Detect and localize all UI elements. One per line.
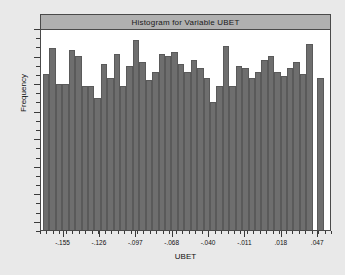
x-axis-minor-tick (247, 231, 248, 234)
x-axis-ticks (40, 231, 331, 238)
x-axis-minor-tick (131, 231, 132, 234)
x-axis-major-tick (244, 231, 245, 237)
x-axis-minor-tick (292, 231, 293, 234)
x-axis-tick-label: -.068 (164, 239, 179, 246)
x-axis-minor-tick (305, 231, 306, 234)
x-axis-minor-tick (182, 231, 183, 234)
y-axis-tick (36, 38, 40, 39)
x-axis-minor-tick (92, 231, 93, 234)
y-axis-tick (36, 66, 40, 67)
x-axis-minor-tick (312, 231, 313, 234)
plot-data-region (41, 30, 330, 230)
x-axis-minor-tick (299, 231, 300, 234)
x-axis-minor-tick (72, 231, 73, 234)
y-axis-ticks (34, 29, 40, 231)
x-axis-minor-tick (228, 231, 229, 234)
x-axis-minor-tick (176, 231, 177, 234)
y-axis-tick (34, 84, 40, 85)
y-axis-tick (36, 75, 40, 76)
y-axis-tick (36, 130, 40, 131)
x-axis-minor-tick (195, 231, 196, 234)
chart-title-banner: Histogram for Variable UBET (41, 15, 330, 30)
y-axis-tick (34, 167, 40, 168)
y-axis-label-wrap: Frequency (22, 78, 32, 168)
y-axis-tick (36, 121, 40, 122)
y-axis-tick (36, 176, 40, 177)
x-axis-minor-tick (137, 231, 138, 234)
x-axis-minor-tick (266, 231, 267, 234)
x-axis-minor-tick (253, 231, 254, 234)
x-axis-tick-label: .018 (274, 239, 287, 246)
x-axis-label: UBET (40, 252, 331, 261)
x-axis-tick-labels: -.155-.126-.097-.068-.040-.011.018.047 (40, 239, 331, 249)
screenshot-root: Histogram for Variable UBET Frequency -.… (0, 0, 345, 275)
x-axis-major-tick (135, 231, 136, 237)
x-axis-minor-tick (163, 231, 164, 234)
x-axis-major-tick (172, 231, 173, 237)
chart-title: Histogram for Variable UBET (132, 18, 240, 27)
histogram-bar (306, 44, 312, 230)
x-axis-minor-tick (46, 231, 47, 234)
x-axis-minor-tick (215, 231, 216, 234)
x-axis-minor-tick (156, 231, 157, 234)
x-axis-minor-tick (66, 231, 67, 234)
x-axis-tick-label: -.155 (55, 239, 70, 246)
y-axis-tick (34, 112, 40, 113)
y-axis-tick (36, 93, 40, 94)
x-axis-minor-tick (118, 231, 119, 234)
x-axis-minor-tick (143, 231, 144, 234)
y-axis-tick (36, 102, 40, 103)
x-axis-tick-label: -.040 (201, 239, 216, 246)
x-axis-major-tick (281, 231, 282, 237)
x-axis-tick-label: -.126 (92, 239, 107, 246)
x-axis-minor-tick (189, 231, 190, 234)
y-axis-tick (36, 185, 40, 186)
y-axis-tick (36, 158, 40, 159)
histogram-bars (43, 30, 328, 230)
plot-frame: Histogram for Variable UBET (40, 14, 331, 231)
x-axis-minor-tick (318, 231, 319, 234)
y-axis-tick (34, 194, 40, 195)
x-axis-minor-tick (169, 231, 170, 234)
y-axis-tick (34, 222, 40, 223)
x-axis-major-tick (63, 231, 64, 237)
y-axis-tick (36, 47, 40, 48)
histogram-bar (317, 78, 323, 230)
x-axis-major-tick (317, 231, 318, 237)
x-axis-minor-tick (79, 231, 80, 234)
x-axis-minor-tick (53, 231, 54, 234)
x-axis-minor-tick (59, 231, 60, 234)
y-axis-tick (34, 57, 40, 58)
x-axis-minor-tick (221, 231, 222, 234)
y-axis-tick (36, 203, 40, 204)
y-axis-tick (36, 148, 40, 149)
x-axis-minor-tick (202, 231, 203, 234)
x-axis-minor-tick (85, 231, 86, 234)
x-axis-minor-tick (286, 231, 287, 234)
y-axis-tick (34, 29, 40, 30)
x-axis-minor-tick (150, 231, 151, 234)
y-axis-tick (36, 213, 40, 214)
x-axis-tick-label: -.097 (128, 239, 143, 246)
x-axis-minor-tick (105, 231, 106, 234)
x-axis-minor-tick (40, 231, 41, 234)
x-axis-major-tick (208, 231, 209, 237)
x-axis-tick-label: -.011 (237, 239, 251, 246)
x-axis-minor-tick (124, 231, 125, 234)
x-axis-minor-tick (273, 231, 274, 234)
x-axis-major-tick (99, 231, 100, 237)
y-axis-label: Frequency (19, 48, 28, 138)
x-axis-tick-label: .047 (311, 239, 324, 246)
x-axis-minor-tick (111, 231, 112, 234)
x-axis-minor-tick (260, 231, 261, 234)
x-axis-minor-tick (240, 231, 241, 234)
x-axis-minor-tick (325, 231, 326, 234)
y-axis-tick (34, 139, 40, 140)
x-axis-minor-tick (234, 231, 235, 234)
x-axis-minor-tick (331, 231, 332, 234)
